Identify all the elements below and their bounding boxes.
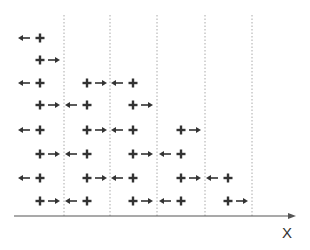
arrow-right-icon	[236, 198, 248, 204]
arrow-left-icon	[159, 198, 171, 204]
arrow-left-icon	[111, 80, 123, 86]
arrow-right-icon	[95, 80, 107, 86]
plus-icon	[129, 174, 138, 183]
plus-icon	[36, 34, 45, 43]
arrow-right-icon	[141, 102, 153, 108]
plus-icon	[83, 174, 92, 183]
diagram-canvas	[0, 0, 310, 250]
arrow-right-icon	[48, 57, 60, 63]
arrow-left-icon	[65, 151, 77, 157]
plus-icon	[177, 150, 186, 159]
plus-icon	[83, 126, 92, 135]
arrow-right-icon	[189, 127, 201, 133]
plus-icon	[36, 126, 45, 135]
plus-icon	[129, 150, 138, 159]
plus-icon	[36, 101, 45, 110]
plus-icon	[83, 101, 92, 110]
arrow-right-icon	[141, 151, 153, 157]
plus-icon	[36, 79, 45, 88]
plus-icon	[36, 197, 45, 206]
x-axis	[14, 213, 296, 219]
arrow-right-icon	[95, 175, 107, 181]
plus-icon	[129, 101, 138, 110]
plus-icon	[224, 197, 233, 206]
arrow-right-icon	[48, 151, 60, 157]
plus-icon	[129, 79, 138, 88]
plus-icon	[224, 174, 233, 183]
arrow-right-icon	[48, 102, 60, 108]
plus-icon	[83, 150, 92, 159]
dashed-dividers	[64, 15, 252, 216]
arrow-right-icon	[48, 198, 60, 204]
axis-arrowhead-icon	[288, 213, 296, 219]
arrow-right-icon	[141, 198, 153, 204]
plus-icon	[36, 56, 45, 65]
arrow-left-icon	[159, 151, 171, 157]
arrow-left-icon	[206, 175, 218, 181]
arrow-left-icon	[18, 127, 30, 133]
plus-icon	[83, 79, 92, 88]
plus-icon	[129, 126, 138, 135]
plus-icon	[177, 197, 186, 206]
plus-icon	[177, 174, 186, 183]
arrow-left-icon	[65, 198, 77, 204]
arrow-left-icon	[18, 80, 30, 86]
arrow-left-icon	[111, 127, 123, 133]
arrow-right-icon	[189, 175, 201, 181]
arrow-left-icon	[111, 175, 123, 181]
arrow-left-icon	[18, 35, 30, 41]
plus-icon	[177, 126, 186, 135]
plus-icon	[36, 150, 45, 159]
arrow-left-icon	[65, 102, 77, 108]
plus-icon	[36, 174, 45, 183]
x-axis-label: X	[282, 224, 292, 241]
plus-icon	[83, 197, 92, 206]
arrow-right-icon	[95, 127, 107, 133]
charge-glyphs	[18, 34, 248, 206]
arrow-left-icon	[18, 175, 30, 181]
plus-icon	[129, 197, 138, 206]
